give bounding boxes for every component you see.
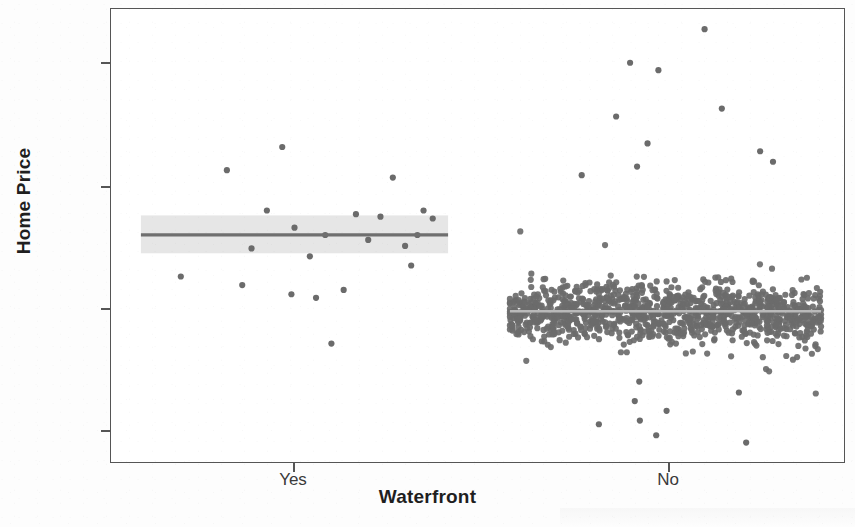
data-point-outlier <box>634 164 640 170</box>
data-point-outlier <box>653 432 659 438</box>
data-point <box>797 315 803 321</box>
data-point <box>804 334 810 340</box>
data-point <box>751 339 757 345</box>
data-point <box>596 327 602 333</box>
data-point-outlier <box>663 408 669 414</box>
data-point <box>548 344 554 350</box>
data-point <box>705 279 711 285</box>
data-point <box>806 290 812 296</box>
data-point <box>701 303 707 309</box>
data-point <box>602 242 608 248</box>
data-point <box>610 282 616 288</box>
data-point <box>728 276 734 282</box>
data-point <box>596 336 602 342</box>
data-point <box>420 207 426 213</box>
data-point <box>766 368 772 374</box>
y-tick-mark <box>101 308 110 310</box>
data-point <box>279 144 285 150</box>
data-point <box>812 341 818 347</box>
series-yes <box>141 144 448 347</box>
data-point <box>730 337 736 343</box>
data-point <box>668 315 674 321</box>
data-point <box>307 253 313 259</box>
data-point <box>564 323 570 329</box>
data-point <box>644 303 650 309</box>
y-tick-mark <box>101 430 110 432</box>
data-point <box>649 333 655 339</box>
data-point-outlier <box>736 389 742 395</box>
data-point <box>552 294 558 300</box>
data-point-outlier <box>613 113 619 119</box>
data-point <box>735 293 741 299</box>
data-point <box>556 329 562 335</box>
data-point <box>239 282 245 288</box>
data-point <box>341 287 347 293</box>
data-point <box>765 324 771 330</box>
data-point <box>528 277 534 283</box>
data-point <box>528 284 534 290</box>
data-point <box>624 298 630 304</box>
data-point <box>803 314 809 320</box>
data-point-outlier <box>644 140 650 146</box>
data-points <box>507 26 824 446</box>
data-point <box>641 312 647 318</box>
data-point <box>757 298 763 304</box>
data-point <box>264 207 270 213</box>
data-point <box>723 277 729 283</box>
data-point <box>690 348 696 354</box>
data-point <box>528 271 534 277</box>
data-point <box>582 316 588 322</box>
data-point <box>654 295 660 301</box>
data-point <box>604 329 610 335</box>
data-point <box>530 336 536 342</box>
data-point-outlier <box>632 398 638 404</box>
data-point <box>728 353 734 359</box>
data-point <box>629 317 635 323</box>
data-point-outlier <box>637 417 643 423</box>
data-point <box>616 335 622 341</box>
data-point <box>672 277 678 283</box>
plot-canvas <box>111 9 844 462</box>
data-point <box>656 333 662 339</box>
data-point <box>572 331 578 337</box>
data-point <box>663 278 669 284</box>
data-point <box>715 274 721 280</box>
series-no <box>507 26 824 446</box>
data-point <box>679 320 685 326</box>
x-axis-title: Waterfront <box>0 486 855 508</box>
data-point <box>775 295 781 301</box>
data-point <box>430 215 436 221</box>
x-tick-mark <box>293 463 295 472</box>
data-point <box>802 345 808 351</box>
data-point <box>599 295 605 301</box>
data-point <box>541 276 547 282</box>
data-point <box>782 292 788 298</box>
data-point <box>408 262 414 268</box>
data-point <box>756 282 762 288</box>
data-point <box>675 285 681 291</box>
data-point <box>625 332 631 338</box>
data-point <box>540 284 546 290</box>
data-point <box>769 266 775 272</box>
data-point <box>672 326 678 332</box>
data-point <box>526 301 532 307</box>
data-point <box>612 287 618 293</box>
data-point-outlier <box>757 148 763 154</box>
data-point <box>690 321 696 327</box>
data-point <box>734 299 740 305</box>
data-point <box>606 298 612 304</box>
data-point <box>178 273 184 279</box>
data-point <box>710 314 716 320</box>
data-point <box>808 314 814 320</box>
data-point-outlier <box>719 105 725 111</box>
data-point-outlier <box>701 26 707 32</box>
data-point <box>715 322 721 328</box>
data-point <box>623 315 629 321</box>
data-point <box>517 228 523 234</box>
data-point <box>699 297 705 303</box>
data-point <box>577 324 583 330</box>
data-point <box>783 333 789 339</box>
data-point <box>816 304 822 310</box>
data-point <box>728 299 734 305</box>
data-point <box>594 281 600 287</box>
